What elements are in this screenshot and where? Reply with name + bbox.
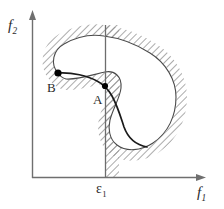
x-axis-label-subscript: 1: [202, 193, 207, 203]
epsilon-constraint-label: ε1: [96, 182, 107, 198]
x-axis-label-main: f: [197, 184, 201, 200]
y-axis-label-main: f: [8, 17, 12, 33]
x-axis-label: f1: [197, 185, 206, 203]
y-axis-label: f2: [8, 18, 17, 36]
objective-space-diagram: [0, 0, 224, 209]
figure-container: f2 f1 ε1 A B: [0, 0, 224, 209]
point-b-marker: [54, 69, 61, 76]
point-a-label: A: [93, 93, 102, 106]
point-a-marker: [102, 83, 108, 89]
point-b-label: B: [47, 81, 56, 94]
y-axis-label-subscript: 2: [13, 26, 18, 36]
epsilon-label-subscript: 1: [102, 189, 106, 199]
epsilon-label-main: ε: [96, 181, 102, 196]
